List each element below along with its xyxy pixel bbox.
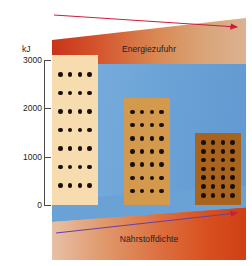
nutrient-dot <box>230 175 235 180</box>
dot-row <box>55 72 94 77</box>
nutrient-dot <box>150 162 155 167</box>
nutrient-dot <box>221 158 226 163</box>
dot-row <box>198 149 237 154</box>
dot-row <box>127 136 166 141</box>
dot-row <box>127 149 166 154</box>
nutrient-dot <box>140 123 145 128</box>
dot-row <box>55 109 94 114</box>
dot-row <box>198 167 237 172</box>
nutrient-dot <box>87 128 92 133</box>
nutrient-dot <box>58 183 63 188</box>
y-axis-tick-2000 <box>45 108 51 109</box>
nutrient-dot <box>221 184 226 189</box>
nutrient-dot <box>87 183 92 188</box>
y-tick-label-2000: 2000 <box>8 104 42 113</box>
nutrient-dot <box>78 165 83 170</box>
nutrient-dot <box>221 140 226 145</box>
nutrient-dot <box>78 146 83 151</box>
nutrient-dot <box>140 149 145 154</box>
y-axis-tick-0 <box>45 205 51 206</box>
nutrient-dot <box>159 176 164 181</box>
nutrient-dot <box>230 149 235 154</box>
nutrient-dot <box>130 162 135 167</box>
nutrient-dot <box>230 167 235 172</box>
bar-energy-high <box>52 55 98 205</box>
nutrient-dot <box>87 165 92 170</box>
nutrient-dot <box>78 109 83 114</box>
dot-row <box>55 128 94 133</box>
plot-panel: Energiezufuhr Nährstoffdichte <box>52 18 246 260</box>
nutrient-dot <box>78 128 83 133</box>
y-tick-label-0: 0 <box>8 201 42 210</box>
nutrient-dot <box>68 128 73 133</box>
nutrient-density-band-label: Nährstoffdichte <box>52 234 246 244</box>
nutrient-dot <box>159 110 164 115</box>
dot-row <box>55 91 94 96</box>
nutrient-dot <box>150 176 155 181</box>
nutrient-dot <box>130 189 135 194</box>
dot-row <box>127 162 166 167</box>
nutrient-dot <box>201 167 206 172</box>
dot-row <box>198 158 237 163</box>
nutrient-dot <box>150 189 155 194</box>
nutrient-dot <box>78 91 83 96</box>
dot-row <box>127 123 166 128</box>
bar-energy-low <box>195 133 241 205</box>
dot-row <box>55 165 94 170</box>
nutrient-dot <box>140 136 145 141</box>
nutrient-dot <box>58 128 63 133</box>
nutrient-dot <box>58 109 63 114</box>
nutrient-dot <box>159 136 164 141</box>
dot-row <box>127 189 166 194</box>
y-tick-label-3000: 3000 <box>8 56 42 65</box>
nutrient-dot <box>68 91 73 96</box>
y-axis-tick-3000 <box>45 60 51 61</box>
nutrient-dot <box>68 146 73 151</box>
nutrient-dot <box>140 110 145 115</box>
nutrient-dot <box>211 193 216 198</box>
nutrient-dot <box>140 162 145 167</box>
nutrient-dot <box>201 175 206 180</box>
nutrient-dot <box>211 175 216 180</box>
dot-row <box>198 175 237 180</box>
nutrient-dot <box>87 109 92 114</box>
nutrient-dot <box>230 193 235 198</box>
nutrient-dot <box>159 162 164 167</box>
nutrient-dot <box>211 167 216 172</box>
nutrient-dot <box>58 91 63 96</box>
dot-row <box>55 146 94 151</box>
nutrient-dot <box>150 136 155 141</box>
nutrient-dot <box>68 109 73 114</box>
nutrient-dot <box>230 158 235 163</box>
nutrient-dot <box>211 184 216 189</box>
nutrient-dot <box>230 184 235 189</box>
nutrient-dot <box>58 146 63 151</box>
nutrient-dot <box>211 140 216 145</box>
nutrient-dot <box>201 193 206 198</box>
nutrient-dot <box>58 72 63 77</box>
nutrient-dot <box>130 123 135 128</box>
nutrient-dot <box>221 167 226 172</box>
nutrient-dot <box>230 140 235 145</box>
nutrient-dot <box>201 140 206 145</box>
nutrient-dot <box>68 72 73 77</box>
nutrient-dot <box>130 149 135 154</box>
figure-energy-nutrient-density: kJ 3000 2000 1000 0 Energiezufuhr Nährst… <box>0 0 252 266</box>
nutrient-dot <box>68 165 73 170</box>
y-axis-unit-label: kJ <box>22 44 31 54</box>
nutrient-dot <box>211 149 216 154</box>
nutrient-dot <box>130 136 135 141</box>
dot-row <box>127 110 166 115</box>
nutrient-dot <box>78 183 83 188</box>
nutrient-dot <box>211 158 216 163</box>
nutrient-dot <box>221 149 226 154</box>
nutrient-dot <box>140 176 145 181</box>
dot-row <box>198 184 237 189</box>
nutrient-dot <box>221 175 226 180</box>
energy-band-label: Energiezufuhr <box>52 44 246 54</box>
nutrient-dot <box>159 189 164 194</box>
dot-row <box>127 176 166 181</box>
nutrient-dot <box>159 149 164 154</box>
nutrient-dot <box>150 149 155 154</box>
nutrient-dot <box>201 158 206 163</box>
